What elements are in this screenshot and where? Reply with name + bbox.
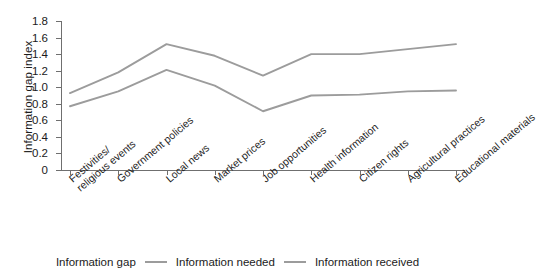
legend-swatch-information-needed	[145, 261, 167, 263]
chart-legend: Information gap Information needed Infor…	[0, 256, 475, 268]
y-tick-label: 0.6	[32, 114, 48, 126]
legend-label-information-received: Information received	[315, 256, 419, 268]
y-tick-label: 1.8	[32, 15, 48, 27]
legend-title: Information gap	[56, 256, 136, 268]
y-tick: 0	[56, 170, 61, 171]
y-tick-label: 1.6	[32, 32, 48, 44]
legend-swatch-information-received	[284, 261, 306, 263]
y-tick-label: 0	[42, 164, 48, 176]
y-tick-label: 0.2	[32, 147, 48, 159]
y-tick-label: 1.2	[32, 65, 48, 77]
series-line-information-needed	[70, 44, 456, 93]
legend-label-information-needed: Information needed	[176, 256, 275, 268]
y-tick-label: 0.8	[32, 98, 48, 110]
y-tick-label: 1.4	[32, 48, 48, 60]
y-tick-label: 1.0	[32, 81, 48, 93]
y-tick-label: 0.4	[32, 131, 48, 143]
